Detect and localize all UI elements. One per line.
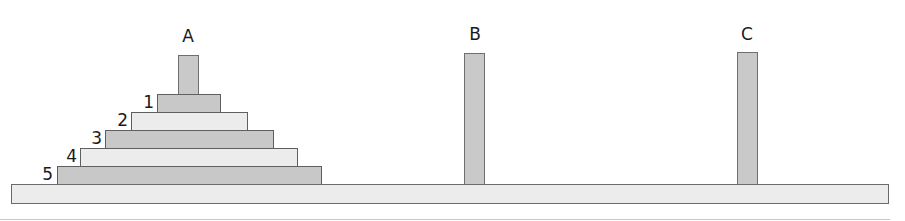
base-platform	[11, 184, 889, 204]
disk-label-1: 1	[134, 93, 154, 111]
disk-2	[131, 112, 248, 131]
hanoi-diagram: A B C 1 2 3 4 5	[0, 0, 905, 221]
peg-label-c: C	[732, 24, 762, 44]
disk-label-5: 5	[33, 165, 53, 183]
disk-1	[157, 94, 221, 113]
peg-label-a: A	[173, 26, 203, 46]
peg-b	[464, 53, 485, 185]
peg-a	[178, 55, 199, 95]
disk-5	[57, 166, 322, 185]
disk-label-3: 3	[82, 129, 102, 147]
disk-label-2: 2	[108, 111, 128, 129]
disk-label-4: 4	[57, 147, 77, 165]
disk-4	[80, 148, 298, 167]
peg-c	[737, 52, 758, 185]
bottom-divider	[0, 219, 890, 220]
peg-label-b: B	[460, 24, 490, 44]
disk-3	[105, 130, 274, 149]
